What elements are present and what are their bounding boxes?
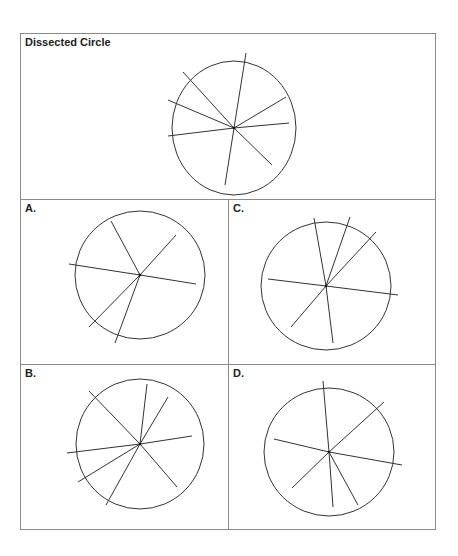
radius-line	[329, 452, 333, 507]
circle-figure-c	[261, 217, 398, 350]
radius-line	[78, 444, 140, 482]
radius-line	[323, 381, 329, 452]
radius-line	[67, 444, 140, 453]
radius-line	[140, 235, 176, 275]
center-dot	[325, 285, 328, 288]
radius-line	[234, 128, 272, 165]
radius-line	[89, 391, 140, 444]
radius-line	[326, 286, 333, 343]
radius-line	[140, 444, 177, 487]
radius-line	[234, 97, 286, 128]
center-dot	[139, 274, 142, 277]
radius-line	[329, 452, 402, 465]
radius-line	[274, 439, 329, 452]
radius-line	[111, 221, 140, 275]
radius-line	[234, 123, 289, 128]
center-dot	[233, 127, 236, 130]
radius-line	[326, 286, 398, 295]
radius-line	[140, 436, 192, 444]
center-dot	[328, 451, 331, 454]
radius-line	[168, 100, 234, 128]
radius-line	[329, 402, 384, 452]
radius-line	[183, 72, 234, 128]
circle-figure-top	[168, 53, 296, 195]
circle-figure-a	[69, 211, 205, 343]
radius-line	[69, 264, 140, 275]
radius-line	[225, 128, 234, 185]
radius-line	[140, 384, 147, 444]
center-dot	[139, 443, 142, 446]
radius-line	[326, 232, 376, 286]
radius-line	[314, 218, 326, 286]
radius-line	[234, 53, 246, 128]
radius-line	[168, 128, 234, 136]
radius-line	[140, 275, 196, 284]
radius-line	[268, 279, 326, 286]
radius-line	[326, 217, 350, 286]
radius-line	[89, 275, 140, 327]
radius-line	[292, 452, 329, 488]
radius-line	[106, 444, 140, 505]
circle-figure-b	[67, 379, 204, 509]
circle-figure-d	[264, 381, 402, 516]
radius-line	[291, 286, 326, 327]
radius-line	[329, 452, 358, 505]
radius-line	[115, 275, 140, 343]
dissected-circle-figures	[0, 0, 458, 556]
